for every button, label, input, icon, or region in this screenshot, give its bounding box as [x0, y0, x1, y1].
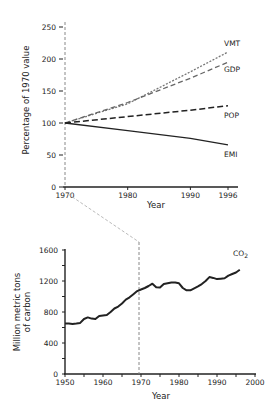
x-tick-label: 1990	[207, 378, 226, 387]
series-line-vmt	[65, 52, 228, 123]
top-y-axis-title: Percentage of 1970 value	[21, 46, 31, 155]
bottom-chart-co2: Million metric tons of carbon 0400800120…	[12, 242, 265, 401]
x-tick-label: 1990	[181, 191, 200, 200]
y-tick-label: 800	[44, 308, 59, 317]
connector-dashed-diagonal	[68, 194, 139, 242]
series-label-pop: POP	[224, 111, 239, 120]
series-line-co2	[65, 270, 240, 324]
x-tick-label: 1970	[131, 378, 150, 387]
x-tick-label: 1996	[218, 191, 237, 200]
x-tick-label: 1970	[55, 191, 74, 200]
bottom-series-lines	[65, 270, 240, 324]
bottom-x-ticks: 195019601970198019902000	[55, 374, 264, 387]
y-tick-label: 400	[44, 339, 59, 348]
y-tick-label: 200	[42, 55, 57, 64]
bottom-y-axis-title-line2: of carbon	[22, 292, 32, 332]
top-x-axis-title: Year	[146, 200, 166, 210]
series-label-emi: EMI	[224, 150, 237, 159]
y-tick-label: 150	[42, 87, 57, 96]
top-series-lines: VMTGDPPOPEMI	[65, 39, 241, 159]
co2-series-label: CO2	[233, 249, 248, 259]
y-tick-label: 1200	[39, 277, 58, 286]
y-tick-label: 100	[42, 119, 57, 128]
x-tick-label: 1960	[93, 378, 112, 387]
series-line-emi	[65, 123, 228, 145]
x-tick-label: 1980	[118, 191, 137, 200]
top-chart-percentage: Percentage of 1970 value 050100150200250…	[21, 22, 241, 210]
figure: Percentage of 1970 value 050100150200250…	[0, 0, 271, 418]
top-y-ticks: 050100150200250	[42, 23, 63, 192]
bottom-y-axis-title-line1: Million metric tons	[12, 272, 22, 351]
bottom-x-axis-title: Year	[151, 391, 171, 401]
series-line-gdp	[65, 62, 228, 123]
x-tick-label: 2000	[245, 378, 264, 387]
y-tick-label: 50	[46, 151, 56, 160]
series-label-vmt: VMT	[224, 39, 241, 48]
y-tick-label: 1600	[39, 246, 58, 255]
x-tick-label: 1950	[55, 378, 74, 387]
top-x-ticks: 1970198019901996	[55, 187, 237, 200]
bottom-y-ticks: 040080012001600	[39, 246, 65, 379]
series-label-gdp: GDP	[224, 65, 241, 74]
y-tick-label: 250	[42, 23, 57, 32]
x-tick-label: 1980	[169, 378, 188, 387]
